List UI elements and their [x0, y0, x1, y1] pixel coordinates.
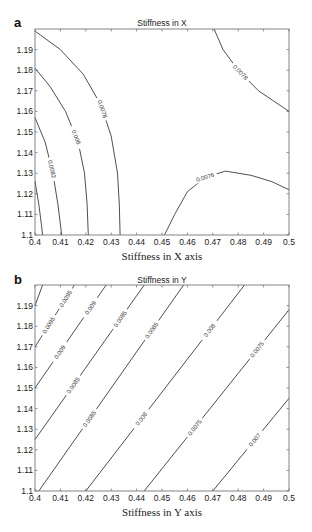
chart-title-a: Stiffness in X	[137, 18, 187, 28]
y-tick-label: 1.13	[16, 168, 33, 178]
panel-a: a Stiffness in X 0.40.410.420.430.440.45…	[14, 15, 295, 262]
y-tick-label: 1.17	[16, 86, 33, 96]
chart-title-b: Stiffness in Y	[137, 275, 187, 285]
contour-line	[35, 68, 88, 235]
y-tick-label: 1.14	[16, 148, 33, 158]
x-tick-label: 0.5	[283, 237, 295, 247]
x-tick-label: 0.49	[255, 493, 272, 503]
contour-labels-a: 0.00820.0080.00780.00780.0076	[46, 61, 252, 184]
y-tick-label: 1.12	[16, 189, 33, 199]
contour-labels-b: 0.00950.00950.0090.0090.00850.00850.0085…	[39, 287, 267, 452]
y-tick-label: 1.19	[16, 45, 33, 55]
x-axis-label-a: Stiffness in X axis	[122, 250, 203, 262]
x-tick-label: 0.47	[205, 237, 222, 247]
x-tick-label: 0.48	[230, 237, 247, 247]
contour-line	[35, 118, 62, 235]
x-tick-label: 0.46	[179, 493, 196, 503]
x-tick-label: 0.49	[255, 237, 272, 247]
y-tick-label: 1.16	[16, 362, 33, 372]
x-tick-label: 0.47	[205, 493, 222, 503]
y-tick-label: 1.16	[16, 106, 33, 116]
contour-label: 0.0075	[249, 340, 266, 359]
contour-label: 0.0085	[112, 309, 128, 328]
figure: a Stiffness in X 0.40.410.420.430.440.45…	[0, 0, 312, 532]
contour-label: 0.0095	[58, 289, 73, 308]
y-tick-label: 1.15	[16, 383, 33, 393]
axis-ticks-a: 0.40.410.420.430.440.450.460.470.480.490…	[16, 29, 295, 247]
x-tick-label: 0.43	[103, 493, 120, 503]
y-tick-label: 1.18	[16, 321, 33, 331]
x-tick-label: 0.45	[154, 493, 171, 503]
x-tick-label: 0.5	[283, 493, 295, 503]
y-tick-label: 1.11	[17, 465, 33, 475]
x-tick-label: 0.41	[52, 493, 69, 503]
contour-label: 0.0085	[82, 409, 98, 428]
x-tick-label: 0.43	[103, 237, 120, 247]
contour-line	[214, 29, 289, 111]
x-tick-label: 0.41	[52, 237, 69, 247]
y-tick-label: 1.12	[16, 445, 33, 455]
y-tick-label: 1.1	[21, 230, 33, 240]
panel-letter-a: a	[14, 15, 22, 30]
contour-label: 0.0085	[144, 321, 160, 340]
panel-letter-b: b	[14, 272, 22, 287]
contour-label: 0.0085	[65, 376, 81, 395]
x-tick-label: 0.46	[179, 237, 196, 247]
y-tick-label: 1.15	[16, 127, 33, 137]
y-tick-label: 1.1	[21, 486, 33, 496]
x-axis-label-b: Stiffness in Y axis	[122, 506, 202, 518]
contour-label: 0.0078	[97, 99, 109, 119]
contour-label: 0.0078	[232, 64, 250, 82]
x-tick-label: 0.45	[154, 237, 171, 247]
x-tick-label: 0.42	[78, 237, 95, 247]
contour-line	[35, 285, 43, 306]
axis-ticks-b: 0.40.410.420.430.440.450.460.470.480.490…	[16, 285, 295, 503]
contour-line	[35, 181, 43, 235]
contour-label: 0.0095	[41, 315, 56, 334]
y-tick-label: 1.14	[16, 404, 33, 414]
contour-line	[144, 310, 289, 491]
contour-label: 0.0082	[47, 160, 57, 180]
x-tick-label: 0.42	[78, 493, 95, 503]
x-tick-label: 0.44	[128, 237, 145, 247]
x-tick-label: 0.44	[128, 493, 145, 503]
panel-b: b Stiffness in Y 0.40.410.420.430.440.45…	[14, 272, 295, 518]
contour-line	[165, 171, 290, 235]
x-tick-label: 0.48	[230, 493, 247, 503]
y-tick-label: 1.17	[16, 342, 33, 352]
contour-line	[39, 285, 184, 491]
y-tick-label: 1.19	[16, 301, 33, 311]
contour-label: 0.0075	[187, 418, 204, 437]
y-tick-label: 1.11	[17, 209, 33, 219]
contour-label: 0.008	[70, 129, 82, 146]
contour-label: 0.0076	[196, 172, 216, 183]
contour-line	[86, 285, 245, 491]
y-tick-label: 1.18	[16, 65, 33, 75]
y-tick-label: 1.13	[16, 424, 33, 434]
